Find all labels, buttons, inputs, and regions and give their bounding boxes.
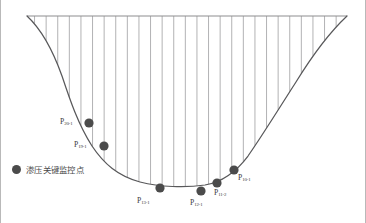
point-label-subscript: 19-1 [78,144,86,149]
legend: 渗压关键监控点 [12,163,84,175]
point-label-subscript: 13-1 [141,200,149,205]
monitoring-point[interactable] [212,178,221,187]
filled-circle-icon [12,165,21,174]
hatch-lines-group [35,16,337,186]
point-label-subscript: 12-1 [194,202,202,207]
point-label-p12-1: P12-1 [190,199,202,208]
point-label-subscript: 10-1 [242,177,250,182]
monitoring-points-group [84,118,238,195]
monitoring-point[interactable] [99,141,108,150]
point-label-p11-2: P11-2 [214,189,226,198]
point-label-subscript: 11-2 [218,192,226,197]
monitoring-point[interactable] [196,186,205,195]
point-label-subscript: 20-1 [64,121,72,126]
point-label-p13-1: P13-1 [137,197,149,206]
point-label-p20-1: P20-1 [60,118,72,127]
monitoring-point[interactable] [84,118,93,127]
monitoring-point[interactable] [155,183,164,192]
cross-section-drawing [0,0,366,223]
point-label-p19-1: P19-1 [74,141,86,150]
valley-profile-curve [27,16,347,187]
figure-canvas: P20-1P19-1P13-1P12-1P11-2P10-1 渗压关键监控点 [0,0,366,223]
point-label-p10-1: P10-1 [238,174,250,183]
legend-label: 渗压关键监控点 [26,163,84,175]
